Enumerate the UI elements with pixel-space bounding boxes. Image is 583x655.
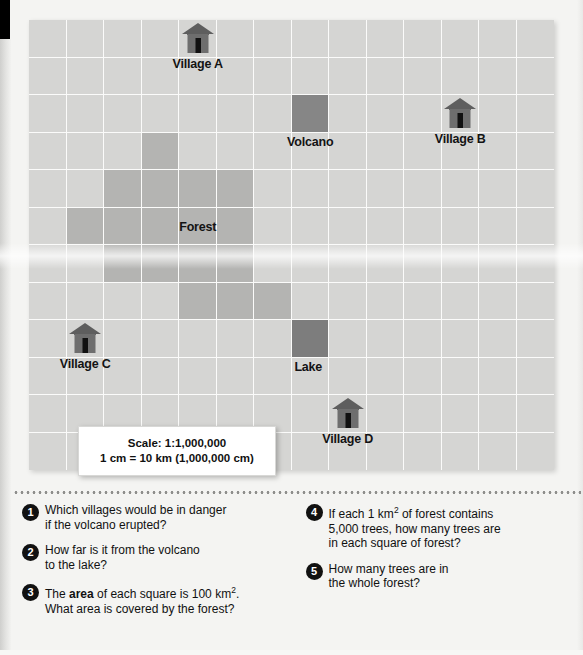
map-cell-lake[interactable] [292, 320, 330, 358]
map-cell[interactable] [442, 433, 480, 471]
map-cell[interactable] [254, 95, 292, 133]
map-cell-forest[interactable] [142, 208, 180, 246]
map-cell[interactable] [254, 170, 292, 208]
map-cell-forest[interactable] [179, 283, 217, 321]
map-cell[interactable] [29, 170, 67, 208]
map-cell[interactable] [517, 245, 555, 283]
map-cell[interactable] [367, 20, 405, 58]
map-cell[interactable] [367, 208, 405, 246]
map-cell[interactable] [104, 20, 142, 58]
map-cell[interactable] [442, 245, 480, 283]
map-cell[interactable] [104, 95, 142, 133]
map-cell[interactable] [254, 245, 292, 283]
map-cell[interactable] [479, 245, 517, 283]
map-cell[interactable] [404, 208, 442, 246]
map-cell[interactable] [329, 245, 367, 283]
map-cell[interactable] [29, 245, 67, 283]
map-cell[interactable] [367, 95, 405, 133]
map-cell[interactable] [404, 170, 442, 208]
map-cell[interactable] [67, 245, 105, 283]
map-cell[interactable] [29, 208, 67, 246]
map-cell-forest[interactable] [179, 170, 217, 208]
map-cell[interactable] [442, 20, 480, 58]
map-cell-forest[interactable] [217, 283, 255, 321]
map-cell[interactable] [517, 20, 555, 58]
map-cell[interactable] [479, 358, 517, 396]
map-cell[interactable] [442, 395, 480, 433]
map-cell[interactable] [29, 133, 67, 171]
map-cell[interactable] [329, 20, 367, 58]
map-cell[interactable] [292, 208, 330, 246]
map-cell[interactable] [404, 358, 442, 396]
map-cell[interactable] [29, 395, 67, 433]
map-cell[interactable] [442, 170, 480, 208]
map-cell[interactable] [517, 320, 555, 358]
map-cell[interactable] [254, 208, 292, 246]
map-cell[interactable] [292, 170, 330, 208]
map-cell[interactable] [29, 20, 67, 58]
map-cell[interactable] [404, 58, 442, 96]
map-cell[interactable] [329, 320, 367, 358]
map-canvas[interactable]: Village AVillage BVillage CVillage D Vol… [29, 20, 554, 470]
map-cell[interactable] [217, 20, 255, 58]
map-cell[interactable] [479, 58, 517, 96]
map-cell[interactable] [329, 208, 367, 246]
map-cell[interactable] [29, 433, 67, 471]
map-cell[interactable] [442, 358, 480, 396]
map-cell[interactable] [254, 320, 292, 358]
map-cell[interactable] [292, 283, 330, 321]
map-cell[interactable] [292, 395, 330, 433]
map-cell[interactable] [367, 170, 405, 208]
map-cell[interactable] [292, 245, 330, 283]
map-cell[interactable] [517, 95, 555, 133]
map-cell[interactable] [254, 358, 292, 396]
map-cell[interactable] [442, 208, 480, 246]
map-cell-forest[interactable] [104, 245, 142, 283]
map-cell[interactable] [479, 20, 517, 58]
map-cell[interactable] [29, 95, 67, 133]
map-cell[interactable] [104, 320, 142, 358]
map-cell[interactable] [254, 58, 292, 96]
map-cell-forest[interactable] [142, 133, 180, 171]
map-cell[interactable] [217, 320, 255, 358]
map-cell[interactable] [142, 358, 180, 396]
map-cell[interactable] [404, 283, 442, 321]
map-cell[interactable] [104, 133, 142, 171]
map-cell-forest[interactable] [67, 208, 105, 246]
map-cell[interactable] [517, 395, 555, 433]
map-cell[interactable] [292, 20, 330, 58]
map-cell-forest[interactable] [142, 245, 180, 283]
map-cell[interactable] [367, 133, 405, 171]
map-cell[interactable] [292, 58, 330, 96]
map-cell[interactable] [517, 358, 555, 396]
map-cell[interactable] [479, 320, 517, 358]
map-cell[interactable] [329, 170, 367, 208]
map-cell[interactable] [404, 20, 442, 58]
map-cell[interactable] [404, 95, 442, 133]
map-cell[interactable] [404, 395, 442, 433]
map-cell[interactable] [404, 245, 442, 283]
map-cell[interactable] [217, 358, 255, 396]
map-cell[interactable] [442, 320, 480, 358]
map-cell[interactable] [367, 358, 405, 396]
map-cell[interactable] [404, 433, 442, 471]
map-cell[interactable] [29, 283, 67, 321]
map-cell[interactable] [29, 58, 67, 96]
map-cell[interactable] [442, 58, 480, 96]
map-cell[interactable] [479, 170, 517, 208]
map-cell[interactable] [367, 245, 405, 283]
map-cell[interactable] [367, 320, 405, 358]
map-cell[interactable] [67, 95, 105, 133]
map-cell[interactable] [329, 283, 367, 321]
map-cell[interactable] [179, 358, 217, 396]
map-cell-forest[interactable] [217, 208, 255, 246]
map-cell[interactable] [479, 433, 517, 471]
map-cell[interactable] [179, 95, 217, 133]
map-cell[interactable] [29, 320, 67, 358]
map-cell[interactable] [67, 170, 105, 208]
map-cell-forest[interactable] [142, 170, 180, 208]
map-cell[interactable] [104, 283, 142, 321]
map-cell[interactable] [329, 95, 367, 133]
map-cell[interactable] [329, 133, 367, 171]
map-cell-forest[interactable] [104, 208, 142, 246]
